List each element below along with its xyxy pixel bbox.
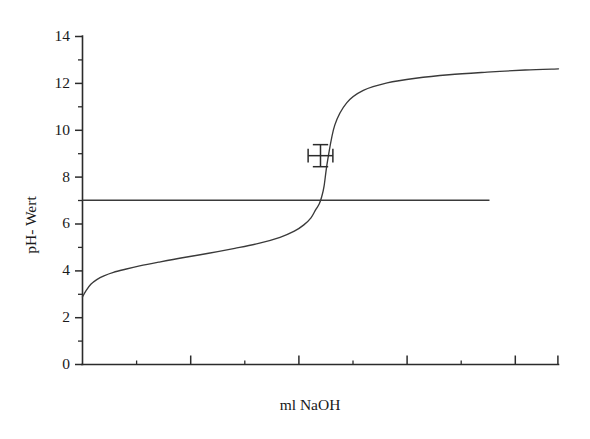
y-axis-title: pH- Wert [22,196,39,254]
y-axis-minor-ticks [78,60,82,341]
titration-curve-line [83,69,559,297]
y-tick-label: 2 [62,308,70,325]
y-axis-tick-labels: 14 12 10 8 6 4 2 0 [55,27,71,372]
y-tick-label: 10 [55,121,71,138]
titration-curve-plot: 14 12 10 8 6 4 2 0 pH- Wert ml NaOH [0,0,590,439]
y-tick-label: 8 [62,168,70,185]
y-tick-label: 4 [62,261,70,278]
y-tick-label: 12 [55,74,71,91]
y-tick-label: 6 [62,214,70,231]
chart-figure: 14 12 10 8 6 4 2 0 pH- Wert ml NaOH [0,0,590,439]
x-axis-title: ml NaOH [280,396,341,413]
x-axis-major-ticks [191,356,558,365]
y-tick-label: 14 [55,27,71,44]
y-tick-label: 0 [62,355,70,372]
